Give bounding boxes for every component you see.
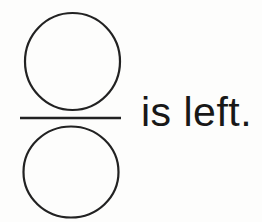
caption-text: is left. (141, 92, 252, 133)
bottom-circle-icon (24, 127, 119, 218)
scanned-page: is left. (0, 0, 262, 222)
top-circle-icon (25, 13, 120, 110)
